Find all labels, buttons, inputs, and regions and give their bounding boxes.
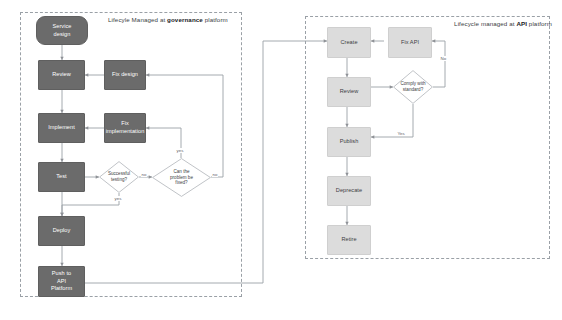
edge-label-fixable-no: no bbox=[212, 172, 218, 177]
node-create[interactable]: Create bbox=[327, 27, 371, 58]
node-service-design-label: Service design bbox=[52, 23, 71, 38]
node-create-label: Create bbox=[340, 39, 357, 47]
panel-api-title-emphasis: API bbox=[516, 20, 527, 27]
comply-with-standard-diamond-shape bbox=[393, 70, 433, 104]
node-test[interactable]: Test bbox=[38, 162, 85, 192]
node-service-design[interactable]: Service design bbox=[36, 16, 88, 45]
panel-api-title-suffix: platform bbox=[527, 20, 552, 27]
node-push-to-api-platform[interactable]: Push to API Platform bbox=[38, 266, 85, 297]
node-deprecate[interactable]: Deprecate bbox=[327, 176, 371, 206]
node-successful-testing[interactable]: Successful testing? bbox=[99, 161, 139, 193]
node-deprecate-label: Deprecate bbox=[336, 187, 362, 195]
node-publish-label: Publish bbox=[340, 138, 359, 146]
can-problem-be-fixed-diamond-shape bbox=[152, 158, 211, 197]
panel-governance-title-suffix: platform bbox=[203, 16, 228, 23]
node-comply-with-standard[interactable]: Comply with standard? bbox=[393, 70, 433, 104]
edge-label-testing-yes: yes bbox=[114, 196, 122, 201]
node-retire-label: Retire bbox=[341, 236, 356, 244]
node-review-api[interactable]: Review bbox=[327, 77, 371, 107]
node-review-label: Review bbox=[52, 71, 71, 79]
panel-api-title-prefix: Lifecycle managed at bbox=[454, 20, 516, 27]
successful-testing-diamond-shape bbox=[99, 161, 139, 193]
panel-api-title: Lifecycle managed at API platform bbox=[454, 20, 552, 27]
node-fix-api[interactable]: Fix API bbox=[388, 27, 432, 58]
diagram-canvas: Lifecyle Managed at governance platform … bbox=[0, 0, 562, 320]
node-test-label: Test bbox=[56, 173, 66, 181]
edge-label-comply-no: No bbox=[440, 56, 447, 61]
node-push-to-api-platform-label: Push to API Platform bbox=[51, 270, 72, 293]
edge-label-fixable-yes: yes bbox=[176, 148, 184, 153]
node-deploy[interactable]: Deploy bbox=[38, 216, 85, 246]
node-fix-design-label: Fix design bbox=[112, 71, 138, 79]
panel-governance-title-prefix: Lifecyle Managed at bbox=[108, 16, 167, 23]
node-can-problem-be-fixed[interactable]: Can the problem be fixed? bbox=[152, 158, 211, 197]
node-review-api-label: Review bbox=[340, 88, 359, 96]
node-publish[interactable]: Publish bbox=[327, 127, 371, 157]
panel-governance bbox=[20, 12, 242, 297]
node-fix-implementation[interactable]: Fix implementation bbox=[104, 113, 146, 143]
node-fix-implementation-label: Fix implementation bbox=[106, 120, 145, 135]
panel-governance-title-emphasis: governance bbox=[167, 16, 203, 23]
edge-label-comply-yes: Yes bbox=[397, 131, 405, 136]
node-implement[interactable]: Implement bbox=[38, 113, 85, 143]
node-fix-design[interactable]: Fix design bbox=[104, 60, 146, 90]
node-deploy-label: Deploy bbox=[53, 227, 71, 235]
node-implement-label: Implement bbox=[48, 124, 75, 132]
node-retire[interactable]: Retire bbox=[327, 225, 371, 255]
edge-label-testing-no: no bbox=[141, 172, 147, 177]
panel-governance-title: Lifecyle Managed at governance platform bbox=[108, 16, 228, 23]
node-fix-api-label: Fix API bbox=[401, 39, 419, 47]
node-review[interactable]: Review bbox=[38, 60, 85, 90]
